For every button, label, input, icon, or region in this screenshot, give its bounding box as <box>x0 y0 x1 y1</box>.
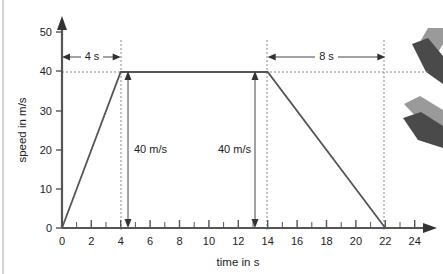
x-tick-label-24: 24 <box>409 235 421 247</box>
x-tick-label-14: 14 <box>262 235 274 247</box>
decel-duration-label: 8 s <box>319 50 334 62</box>
chart-canvas: 50 40 30 20 10 0 <box>0 0 443 274</box>
speed-time-chart: 50 40 30 20 10 0 <box>0 0 443 274</box>
x-tick-label-22: 22 <box>379 235 391 247</box>
x-tick-label-18: 18 <box>320 235 332 247</box>
y-axis-title: speed in m/s <box>16 97 28 162</box>
x-tick-label-20: 20 <box>350 235 362 247</box>
y-tick-label-50: 50 <box>40 26 52 38</box>
x-tick-label-2: 2 <box>88 235 94 247</box>
y-tick-label-20: 20 <box>40 144 52 156</box>
x-tick-label-6: 6 <box>147 235 153 247</box>
accel-duration-label: 4 s <box>85 50 100 62</box>
y-tick-label-30: 30 <box>40 105 52 117</box>
x-tick-label-10: 10 <box>203 235 215 247</box>
decel-speed-change-label: 40 m/s <box>218 143 252 155</box>
accel-speed-change-label: 40 m/s <box>134 143 168 155</box>
x-tick-label-12: 12 <box>232 235 244 247</box>
x-tick-label-16: 16 <box>291 235 303 247</box>
y-tick-label-10: 10 <box>40 183 52 195</box>
chart-background <box>0 0 443 274</box>
y-tick-label-40: 40 <box>40 65 52 77</box>
x-axis-title: time in s <box>217 256 260 268</box>
x-tick-label-8: 8 <box>176 235 182 247</box>
x-tick-label-0: 0 <box>59 235 65 247</box>
y-tick-label-0: 0 <box>46 222 52 234</box>
x-tick-label-4: 4 <box>118 235 124 247</box>
